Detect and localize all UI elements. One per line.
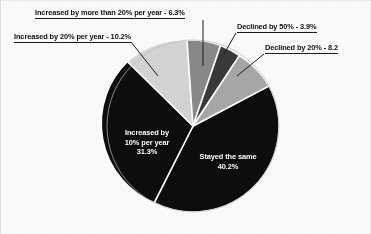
- callout-label-increased-20: Increased by 20% per year - 10.2%: [14, 32, 131, 43]
- inside-label-line-2: 10% per year: [105, 138, 189, 148]
- inside-label-line-1: Stayed the same: [176, 152, 280, 162]
- inside-label-stayed-the-same: Stayed the same 40.2%: [176, 152, 280, 171]
- callout-label-declined-50: Declined by 50% - 3.9%: [237, 22, 317, 33]
- callout-label-increased-more-than-20: Increased by more than 20% per year - 6.…: [35, 8, 185, 19]
- inside-label-line-2: 40.2%: [176, 162, 280, 172]
- callout-label-declined-20: Declined by 20% - 8.2: [265, 43, 338, 54]
- inside-label-line-1: Increased by: [105, 128, 189, 138]
- pie-chart-figure: Increased by more than 20% per year - 6.…: [0, 0, 371, 234]
